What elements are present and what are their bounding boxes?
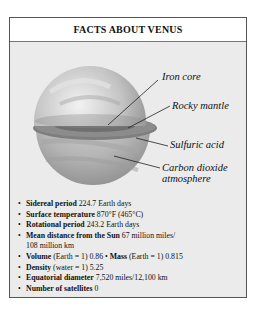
fact-rotational-period: Rotational period 243.2 Earth days [18, 220, 243, 231]
fact-mean-distance: Mean distance from the Sun 67 million mi… [18, 231, 243, 252]
header: FACTS ABOUT VENUS [10, 18, 246, 42]
label-atmosphere: atmosphere [162, 173, 211, 184]
label-iron-core: Iron core [162, 71, 201, 82]
label-sulfuric-acid: Sulfuric acid [170, 139, 224, 150]
fact-volume-mass: Volume (Earth = 1) 0.86 • Mass (Earth = … [18, 252, 243, 263]
fact-density: Density (water = 1) 5.25 [18, 263, 243, 274]
facts-list: Sidereal period 224.7 Earth days Surface… [18, 199, 243, 294]
venus-cutaway-diagram: Iron core Rocky mantle Sulfuric acid Car… [10, 42, 246, 192]
fact-equatorial-diameter: Equatorial diameter 7,520 miles/12,100 k… [18, 273, 243, 284]
page-title: FACTS ABOUT VENUS [74, 24, 183, 35]
label-rocky-mantle: Rocky mantle [172, 100, 229, 111]
venus-facts-box: FACTS ABOUT VENUS [9, 17, 247, 298]
fact-number-of-satellites: Number of satellites 0 [18, 284, 243, 295]
fact-sidereal-period: Sidereal period 224.7 Earth days [18, 199, 243, 210]
label-carbon-dioxide: Carbon dioxide [162, 162, 228, 173]
fact-surface-temperature: Surface temperature 870°F (465°C) [18, 210, 243, 221]
